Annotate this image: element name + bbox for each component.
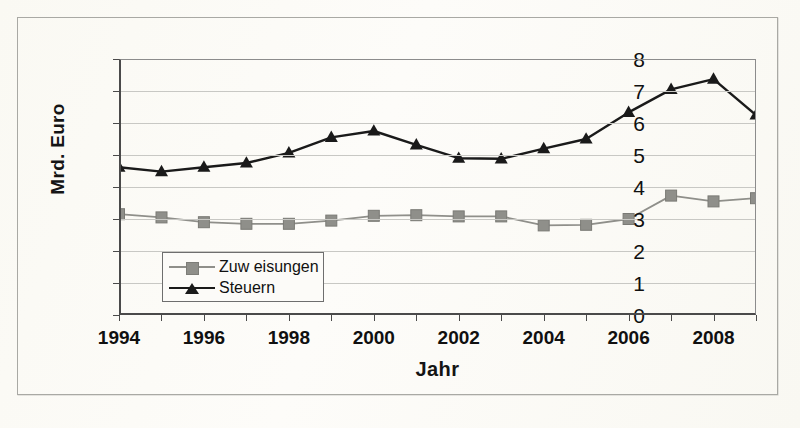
x-tick-mark bbox=[544, 315, 545, 321]
x-tick-mark bbox=[374, 315, 375, 321]
line-chart: Mrd. Euro Jahr 012345678 199419961998200… bbox=[18, 18, 777, 394]
x-tick-mark bbox=[459, 315, 460, 321]
x-tick-mark bbox=[119, 315, 120, 321]
triangle-marker-icon bbox=[169, 280, 215, 296]
screenshot-page: Mrd. Euro Jahr 012345678 199419961998200… bbox=[0, 0, 800, 428]
x-tick-mark bbox=[629, 315, 630, 321]
plot-area: 012345678 199419961998200020022004200620… bbox=[119, 59, 756, 315]
x-tick-label: 2008 bbox=[692, 327, 734, 349]
x-tick-mark bbox=[671, 315, 672, 321]
x-tick-label: 2006 bbox=[607, 327, 649, 349]
x-axis-title: Jahr bbox=[119, 358, 756, 381]
x-tick-mark bbox=[161, 315, 162, 321]
x-tick-mark bbox=[331, 315, 332, 321]
y-axis-title: Mrd. Euro bbox=[47, 69, 69, 229]
chart-legend: Zuw eisungen Steuern bbox=[162, 252, 324, 302]
x-tick-label: 1996 bbox=[183, 327, 225, 349]
x-tick-label: 1994 bbox=[98, 327, 140, 349]
x-tick-mark bbox=[586, 315, 587, 321]
x-tick-mark bbox=[416, 315, 417, 321]
x-tick-mark bbox=[246, 315, 247, 321]
x-tick-mark bbox=[289, 315, 290, 321]
legend-item-zuweisungen: Zuw eisungen bbox=[169, 256, 317, 277]
legend-label-zuweisungen: Zuw eisungen bbox=[219, 259, 319, 275]
square-marker-icon bbox=[169, 259, 215, 275]
x-tick-label: 2004 bbox=[523, 327, 565, 349]
figure-frame: Mrd. Euro Jahr 012345678 199419961998200… bbox=[17, 17, 778, 395]
x-tick-label: 2000 bbox=[353, 327, 395, 349]
legend-label-steuern: Steuern bbox=[219, 280, 275, 296]
legend-item-steuern: Steuern bbox=[169, 277, 317, 298]
x-tick-label: 2002 bbox=[438, 327, 480, 349]
x-tick-label: 1998 bbox=[268, 327, 310, 349]
x-tick-mark bbox=[756, 315, 757, 321]
x-tick-mark bbox=[714, 315, 715, 321]
x-tick-mark bbox=[204, 315, 205, 321]
x-tick-mark bbox=[501, 315, 502, 321]
